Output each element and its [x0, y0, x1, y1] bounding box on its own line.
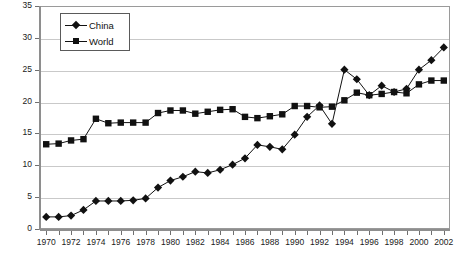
x-tick-mark-1991 [307, 231, 308, 235]
x-tick-label-2002: 2002 [434, 237, 453, 247]
x-tick-mark-1988 [270, 231, 271, 235]
legend-label-china: China [87, 20, 114, 31]
x-tick-mark-1977 [133, 231, 134, 235]
x-tick-label-1982: 1982 [186, 237, 205, 247]
y-tick-mark-5 [35, 197, 39, 198]
x-tick-mark-1992 [320, 231, 321, 235]
x-tick-mark-1981 [183, 231, 184, 235]
x-tick-mark-2002 [444, 231, 445, 235]
world-square-icon [65, 35, 87, 47]
x-tick-mark-1993 [332, 231, 333, 235]
y-tick-mark-35 [35, 6, 39, 7]
x-tick-label-1980: 1980 [161, 237, 180, 247]
x-tick-mark-1973 [83, 231, 84, 235]
y-tick-mark-15 [35, 133, 39, 134]
y-tick-mark-10 [35, 165, 39, 166]
y-tick-label-5: 5 [8, 191, 32, 201]
y-tick-label-35: 35 [8, 0, 32, 10]
x-tick-mark-1984 [220, 231, 221, 235]
x-tick-mark-1974 [96, 231, 97, 235]
x-tick-mark-1975 [108, 231, 109, 235]
x-tick-mark-1997 [382, 231, 383, 235]
x-tick-label-1994: 1994 [335, 237, 354, 247]
y-tick-label-15: 15 [8, 127, 32, 137]
x-tick-mark-1982 [195, 231, 196, 235]
x-tick-mark-1985 [233, 231, 234, 235]
x-tick-label-1992: 1992 [310, 237, 329, 247]
x-tick-label-1986: 1986 [236, 237, 255, 247]
y-axis-line [39, 6, 41, 230]
y-tick-mark-20 [35, 102, 39, 103]
y-tick-mark-30 [35, 38, 39, 39]
x-tick-mark-1983 [208, 231, 209, 235]
legend-label-world: World [87, 36, 114, 47]
x-tick-mark-1980 [170, 231, 171, 235]
gridline-y-25 [41, 71, 449, 72]
x-tick-label-1988: 1988 [260, 237, 279, 247]
x-tick-label-1990: 1990 [285, 237, 304, 247]
y-tick-mark-25 [35, 70, 39, 71]
x-tick-mark-1970 [46, 231, 47, 235]
x-tick-mark-1986 [245, 231, 246, 235]
x-tick-label-2000: 2000 [409, 237, 428, 247]
gridline-y-20 [41, 103, 449, 104]
x-tick-mark-2000 [419, 231, 420, 235]
gridline-y-10 [41, 166, 449, 167]
x-tick-mark-1999 [407, 231, 408, 235]
x-tick-mark-1978 [146, 231, 147, 235]
x-tick-mark-1979 [158, 231, 159, 235]
x-tick-label-1976: 1976 [111, 237, 130, 247]
x-tick-mark-1995 [357, 231, 358, 235]
y-tick-label-30: 30 [8, 32, 32, 42]
y-tick-label-25: 25 [8, 64, 32, 74]
x-tick-label-1970: 1970 [37, 237, 56, 247]
x-tick-mark-1994 [344, 231, 345, 235]
x-tick-mark-1987 [257, 231, 258, 235]
x-tick-mark-1976 [121, 231, 122, 235]
y-tick-label-0: 0 [8, 223, 32, 233]
gridline-y-15 [41, 134, 449, 135]
x-tick-label-1984: 1984 [211, 237, 230, 247]
legend-item-china: China [65, 17, 125, 33]
legend-item-world: World [65, 33, 125, 49]
line-chart: 05101520253035 1970197219741976197819801… [0, 0, 455, 261]
y-tick-mark-0 [35, 229, 39, 230]
x-tick-mark-1998 [394, 231, 395, 235]
x-tick-mark-1972 [71, 231, 72, 235]
x-tick-label-1972: 1972 [62, 237, 81, 247]
x-tick-mark-2001 [431, 231, 432, 235]
china-diamond-icon [65, 19, 87, 31]
gridline-y-5 [41, 198, 449, 199]
x-tick-mark-1971 [59, 231, 60, 235]
x-tick-label-1998: 1998 [385, 237, 404, 247]
x-tick-label-1978: 1978 [136, 237, 155, 247]
x-tick-label-1996: 1996 [360, 237, 379, 247]
legend: China World [60, 13, 130, 51]
x-tick-mark-1996 [369, 231, 370, 235]
x-tick-label-1974: 1974 [86, 237, 105, 247]
y-tick-label-10: 10 [8, 159, 32, 169]
x-tick-mark-1989 [282, 231, 283, 235]
x-tick-mark-1990 [295, 231, 296, 235]
y-tick-label-20: 20 [8, 96, 32, 106]
